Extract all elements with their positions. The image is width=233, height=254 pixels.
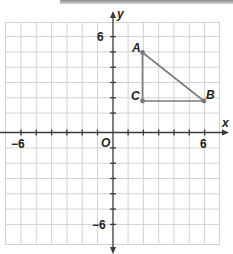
point-b-label: B [206, 88, 215, 102]
coordinate-plane: y x O 6 −6 −6 6 A B C [0, 0, 233, 254]
x-axis [0, 130, 229, 136]
y-axis-down-arrow-icon [110, 247, 116, 254]
point-c-label: C [131, 89, 140, 103]
x-tick-label-pos6: 6 [200, 137, 207, 151]
point-a [140, 50, 145, 55]
point-a-label: A [131, 41, 141, 55]
y-tick-label-neg6: −6 [92, 218, 106, 232]
y-axis-label: y [116, 7, 125, 21]
grid [5, 22, 220, 245]
point-c [140, 99, 145, 104]
x-axis-label: x [221, 116, 230, 130]
x-axis-arrow-icon [222, 130, 229, 136]
triangle-abc [140, 50, 206, 103]
y-tick-label-pos6: 6 [97, 30, 104, 44]
y-axis-up-arrow-icon [110, 11, 116, 18]
origin-label: O [101, 136, 111, 150]
x-tick-label-neg6: −6 [11, 137, 25, 151]
